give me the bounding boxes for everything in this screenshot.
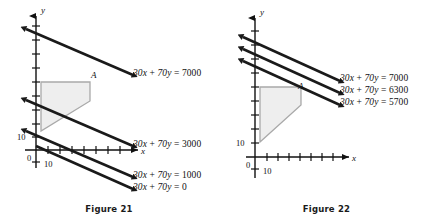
figure-21: y x 10 0 10 A 30x + 70y = 7000 30x + 70y…	[0, 0, 218, 221]
equation-label-5700: 30x + 70y = 5700	[340, 97, 408, 107]
y-tick-label-10: 10	[236, 138, 245, 148]
y-axis-label: y	[259, 7, 264, 17]
equation-label-7000: 30x + 70y = 7000	[133, 68, 201, 78]
equation-label-6300: 30x + 70y = 6300	[340, 85, 408, 95]
equation-label-1000: 30x + 70y = 1000	[133, 170, 201, 180]
x-tick-label-10: 10	[44, 159, 53, 169]
y-axis-label: y	[40, 5, 45, 15]
figure-21-caption: Figure 21	[0, 204, 218, 214]
figure-pair-page: y x 10 0 10 A 30x + 70y = 7000 30x + 70y…	[0, 0, 435, 221]
origin-label: 0	[27, 153, 31, 163]
x-tick-label-10: 10	[263, 166, 272, 176]
x-axis-label: x	[351, 153, 356, 163]
origin-label: 0	[246, 160, 250, 170]
equation-label-0: 30x + 70y = 0	[133, 182, 187, 192]
feasible-region	[260, 87, 301, 142]
vertex-label-a: A	[90, 70, 97, 80]
equation-label-3000: 30x + 70y = 3000	[133, 139, 201, 149]
figure-22: y x 10 0 10 A 30x + 70y = 7000 30x + 70y…	[218, 0, 435, 221]
objective-line-7000	[26, 29, 133, 75]
equation-label-7000: 30x + 70y = 7000	[340, 73, 408, 83]
figure-22-caption: Figure 22	[218, 204, 435, 214]
y-tick-label-10: 10	[17, 132, 26, 142]
vertex-label-a: A	[297, 81, 304, 91]
